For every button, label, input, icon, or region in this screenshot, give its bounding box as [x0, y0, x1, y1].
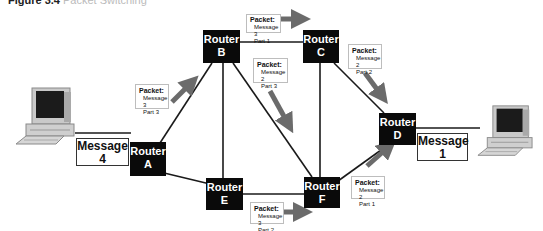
router-e: Router E: [206, 178, 243, 210]
router-d: Router D: [379, 113, 416, 145]
packet-label: Packet: Message 3 Part 1: [246, 14, 281, 33]
message-number: 1: [418, 148, 467, 161]
router-f: Router F: [304, 177, 340, 208]
desktop-computer-icon: [12, 86, 78, 152]
router-letter: B: [203, 46, 240, 59]
router-label: Router: [303, 33, 339, 46]
packet-label: Packet: Message 2 Part 2: [348, 44, 382, 69]
router-label: Router: [379, 116, 416, 129]
arrow-a-to-b: [172, 86, 188, 102]
router-b: Router B: [203, 30, 240, 63]
router-label: Router: [130, 145, 166, 158]
router-c: Router C: [303, 30, 339, 63]
packet-label: Packet: Message 2 Part 3: [253, 58, 288, 83]
desktop-computer-icon: [474, 104, 536, 160]
message-box-right: Message 1: [417, 133, 468, 161]
packet-label: Packet: Message 3 Part 2: [250, 202, 284, 224]
packet-label: Packet: Message 3 Part 3: [135, 84, 169, 109]
message-number: 4: [77, 153, 128, 166]
router-letter: A: [130, 158, 166, 171]
router-a: Router A: [130, 142, 166, 176]
router-label: Router: [203, 33, 240, 46]
router-letter: F: [304, 193, 340, 206]
router-letter: E: [206, 194, 243, 207]
router-letter: C: [303, 46, 339, 59]
packet-label: Packet: Message 2 Part 1: [351, 176, 385, 199]
router-letter: D: [379, 129, 416, 142]
message-box-left: Message 4: [76, 138, 129, 166]
arrow-b-to-f: [270, 91, 286, 120]
router-label: Router: [206, 181, 243, 194]
link-a-e: [160, 172, 210, 184]
router-label: Router: [304, 180, 340, 193]
